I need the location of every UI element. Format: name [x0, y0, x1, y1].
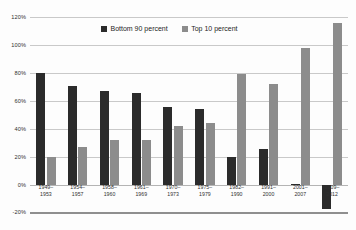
bar-top-10-2 [110, 140, 119, 185]
x-axis-label-4: 1970–1973 [156, 184, 190, 197]
x-axis-label-7: 1991–2000 [252, 184, 286, 197]
legend-label-bottom-90: Bottom 90 percent [111, 25, 168, 32]
legend-swatch-icon-top-10 [182, 26, 188, 32]
bar-bottom-90-2 [100, 91, 109, 185]
legend-item-bottom-90: Bottom 90 percent [101, 25, 168, 32]
bar-top-10-7 [269, 84, 278, 185]
y-tick-label-minus20: -20% [13, 209, 26, 215]
x-axis-label-8: 2001–2007 [283, 184, 317, 197]
bar-top-10-5 [206, 123, 215, 185]
y-tick-label-100: 100% [11, 42, 26, 48]
bar-chart: 120% 100% 80% 60% 40% 20% 0% -20% 1949–1… [0, 0, 356, 230]
y-tick-label-120: 120% [11, 14, 26, 20]
x-axis-label-6: 1982–1990 [220, 184, 254, 197]
bar-top-10-8 [301, 48, 310, 185]
x-axis-label-9: 2009–2012 [315, 184, 349, 197]
x-axis-label-1: 1954–1957 [61, 184, 95, 197]
bar-top-10-6 [237, 74, 246, 185]
x-axis-label-3: 1961–1969 [124, 184, 158, 197]
bar-top-10-9 [333, 23, 342, 185]
x-axis-label-0: 1949–1953 [29, 184, 63, 197]
y-tick-label-40: 40% [15, 126, 27, 132]
bar-bottom-90-4 [163, 107, 172, 185]
bar-top-10-4 [174, 126, 183, 185]
chart-legend: Bottom 90 percent Top 10 percent [101, 25, 238, 32]
legend-label-top-10: Top 10 percent [191, 25, 237, 32]
bar-bottom-90-6 [227, 157, 236, 185]
bar-top-10-0 [47, 157, 56, 185]
y-tick-label-60: 60% [15, 98, 27, 104]
bar-bottom-90-7 [259, 149, 268, 185]
legend-swatch-icon-bottom-90 [101, 26, 107, 32]
y-tick-label-20: 20% [15, 154, 27, 160]
bar-bottom-90-3 [132, 93, 141, 185]
y-tick-label-80: 80% [15, 70, 27, 76]
bar-top-10-1 [78, 147, 87, 185]
bar-bottom-90-5 [195, 109, 204, 185]
x-axis-label-2: 1958–1960 [93, 184, 127, 197]
bar-bottom-90-1 [68, 86, 77, 185]
y-tick-label-0: 0% [18, 182, 26, 188]
bar-bottom-90-0 [36, 73, 45, 185]
x-axis-label-5: 1975–1979 [188, 184, 222, 197]
legend-item-top-10: Top 10 percent [182, 25, 238, 32]
bar-top-10-3 [142, 140, 151, 185]
